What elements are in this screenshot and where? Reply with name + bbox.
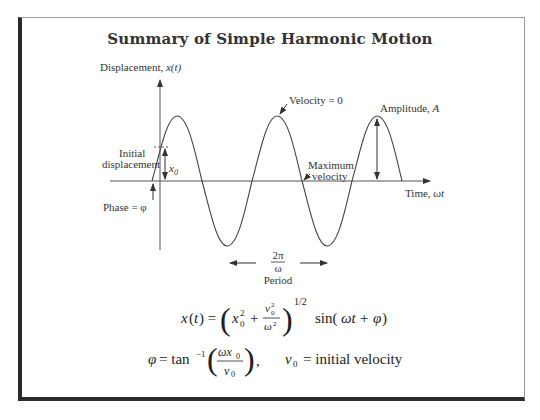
svg-text:v: v — [224, 364, 230, 378]
svg-text:φ: φ — [373, 310, 381, 326]
displacement-equation: x ( t ) = ( x 2 0 + v 2 0 ω 2 ) 1/2 sin(… — [180, 296, 387, 337]
velocity-zero-label: Velocity = 0 — [289, 94, 343, 106]
svg-text:0: 0 — [240, 319, 245, 329]
svg-text:0: 0 — [231, 370, 235, 379]
period-denominator: ω — [274, 262, 281, 274]
svg-text:2: 2 — [240, 308, 245, 318]
period-numerator: 2π — [272, 249, 284, 261]
svg-text:) =: ) = — [199, 310, 216, 327]
max-velocity-label-2: velocity — [312, 170, 348, 182]
svg-text:v: v — [265, 302, 270, 314]
svg-text:,: , — [256, 353, 260, 369]
phase-label: Phase = φ — [103, 201, 147, 213]
velocity-zero-pointer — [280, 104, 287, 114]
svg-text:= initial velocity: = initial velocity — [303, 351, 403, 367]
svg-text:x: x — [180, 310, 188, 326]
svg-text:v: v — [285, 351, 292, 367]
svg-text:(: ( — [207, 341, 218, 377]
svg-text:φ: φ — [148, 351, 156, 367]
svg-text:0: 0 — [236, 352, 240, 361]
svg-text:sin(: sin( — [315, 310, 338, 327]
initial-label-2: displacement — [102, 158, 160, 170]
y-axis-label: Displacement, x(t) — [100, 61, 182, 74]
x0-label: x0 — [168, 162, 178, 177]
period-label: Period — [264, 274, 293, 286]
svg-text:x: x — [231, 310, 239, 326]
svg-text:+: + — [360, 310, 368, 326]
phase-equation: φ = tan −1 ( ωx 0 v 0 ) , v 0 = initial … — [148, 341, 403, 379]
svg-text:ωx: ωx — [218, 345, 232, 359]
svg-text:1/2: 1/2 — [294, 296, 307, 307]
shm-diagram: Displacement, x(t) Time, ωt Velocity = 0… — [0, 0, 540, 420]
svg-text:): ) — [382, 310, 387, 327]
svg-text:): ) — [282, 301, 293, 337]
svg-text:0: 0 — [271, 309, 275, 317]
svg-text:+: + — [250, 310, 258, 326]
x-axis-label: Time, ωt — [405, 187, 445, 199]
svg-text:= tan: = tan — [159, 351, 190, 367]
svg-text:−1: −1 — [196, 349, 206, 359]
svg-text:2: 2 — [271, 301, 275, 309]
max-velocity-pointer — [304, 174, 310, 180]
svg-text:2: 2 — [273, 320, 277, 328]
svg-text:0: 0 — [293, 359, 298, 369]
svg-text:ωt: ωt — [341, 310, 357, 326]
amplitude-label: Amplitude, A — [380, 102, 440, 114]
svg-text:ω: ω — [264, 320, 272, 332]
svg-text:): ) — [244, 341, 255, 377]
svg-text:(: ( — [220, 301, 231, 337]
